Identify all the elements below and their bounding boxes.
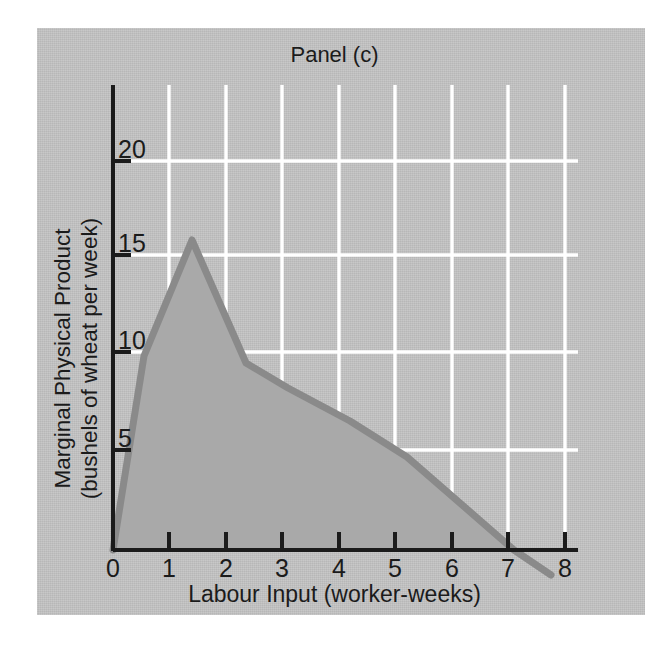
y-axis-ticks	[113, 161, 131, 450]
x-tick-label-4: 4	[332, 556, 346, 581]
x-tick-label-3: 3	[275, 556, 289, 581]
y-tick-label-10: 10	[118, 328, 146, 353]
x-tick-label-7: 7	[501, 556, 515, 581]
x-tick-label-2: 2	[219, 556, 233, 581]
y-axis-label-line2: (bushels of wheat per week)	[77, 149, 104, 569]
x-tick-label-6: 6	[445, 556, 459, 581]
y-tick-label-20: 20	[118, 137, 146, 162]
y-tick-label-5: 5	[118, 426, 132, 451]
y-axis-label: Marginal Physical Product (bushels of wh…	[50, 149, 103, 569]
x-tick-label-1: 1	[162, 556, 176, 581]
y-tick-label-15: 15	[118, 231, 146, 256]
y-axis-label-line1: Marginal Physical Product	[50, 228, 75, 488]
figure-canvas: Panel (c)	[0, 0, 669, 648]
x-tick-label-8: 8	[558, 556, 572, 581]
x-axis-label: Labour Input (worker-weeks)	[0, 583, 669, 606]
x-tick-label-0: 0	[106, 556, 120, 581]
x-tick-label-5: 5	[388, 556, 402, 581]
